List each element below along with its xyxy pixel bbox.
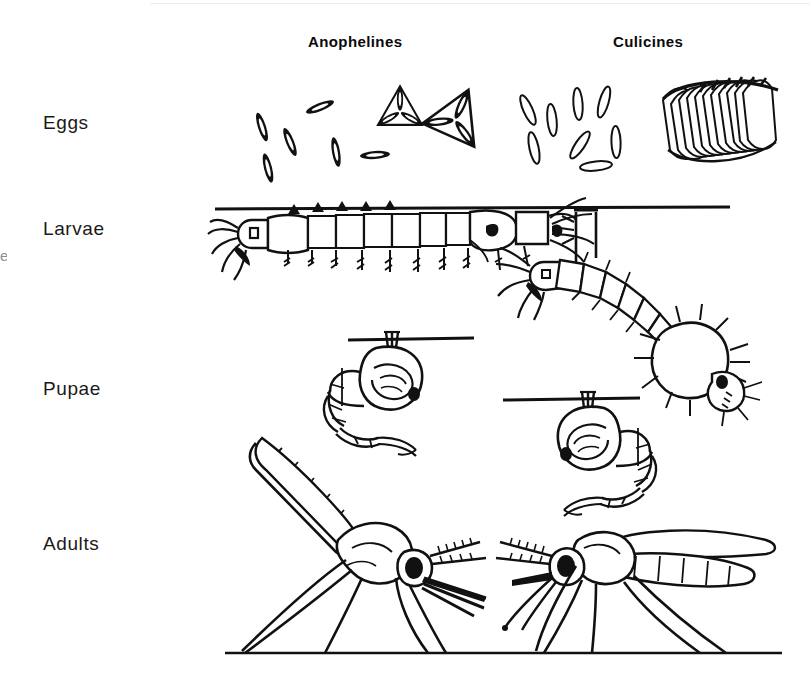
column-header-culicines: Culicines [613,33,683,50]
egg-raft [663,77,778,161]
left-edge-text-fragment: e [0,249,7,262]
larvae-anophelines-art [208,198,594,280]
eggs-culicines-art [517,77,778,172]
pupae-culicines-art [503,392,656,516]
column-header-anophelines: Anophelines [308,33,402,50]
adults-anophelines-art [242,438,486,653]
adults-culicines-art [496,530,775,653]
row-label-adults: Adults [43,533,99,555]
larvae-water-surface-line [215,207,730,209]
pupae-anophelines-art [324,332,474,456]
page-top-rule [150,3,810,4]
eggs-anophelines-art [254,78,496,184]
line-art-illustration [0,0,811,679]
row-label-larvae: Larvae [43,218,105,240]
mosquito-life-stage-figure: e Anophelines Culicines Eggs Larvae Pupa… [0,0,811,679]
row-label-eggs: Eggs [43,112,89,134]
row-label-pupae: Pupae [43,378,101,400]
larvae-culicines-art [496,210,762,426]
